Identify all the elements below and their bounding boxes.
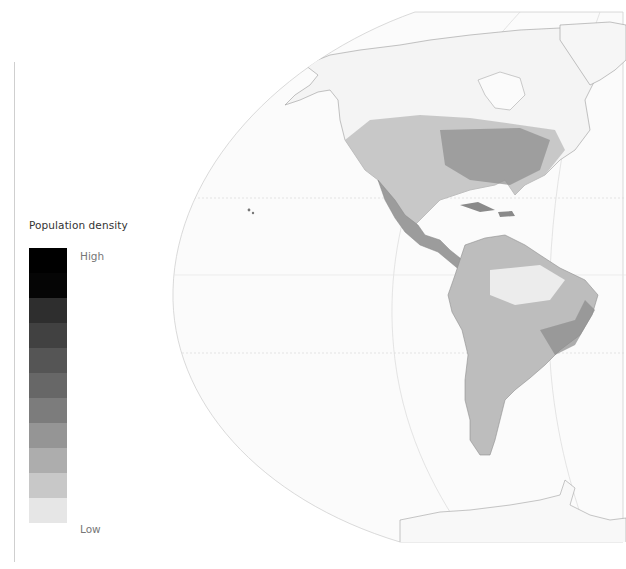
population-density-map[interactable] [0,0,626,569]
